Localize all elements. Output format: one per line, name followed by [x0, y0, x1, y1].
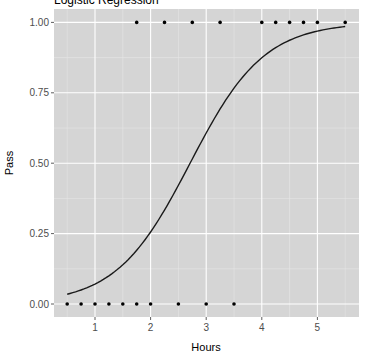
data-point	[191, 21, 195, 25]
data-point	[316, 21, 320, 25]
data-point	[288, 21, 292, 25]
data-point	[177, 302, 181, 306]
x-axis: 12345	[92, 317, 320, 333]
y-tick-label: 1.00	[30, 17, 50, 28]
y-axis-title: Pass	[3, 150, 15, 175]
y-tick-label: 0.00	[30, 299, 50, 310]
x-tick-label: 5	[315, 322, 321, 333]
data-point	[302, 21, 306, 25]
data-point	[79, 302, 83, 306]
data-point	[204, 302, 208, 306]
data-point	[121, 302, 125, 306]
data-point	[135, 21, 139, 25]
y-tick-label: 0.75	[30, 87, 50, 98]
data-point	[149, 302, 153, 306]
x-tick-label: 1	[92, 322, 98, 333]
data-point	[135, 302, 139, 306]
data-point	[218, 21, 222, 25]
y-axis: 0.000.250.500.751.00	[30, 17, 54, 310]
data-point	[232, 302, 236, 306]
data-point	[343, 21, 347, 25]
data-point	[93, 302, 97, 306]
data-point	[107, 302, 111, 306]
logistic-regression-chart: Logistic Regression 12345 0.000.250.500.…	[0, 0, 370, 364]
chart-title: Logistic Regression	[54, 0, 159, 7]
data-point	[274, 21, 278, 25]
plot-canvas: 12345 0.000.250.500.751.00 Hours Pass	[0, 0, 370, 364]
x-tick-label: 2	[148, 322, 154, 333]
y-tick-label: 0.25	[30, 228, 50, 239]
x-tick-label: 3	[203, 322, 209, 333]
x-tick-label: 4	[259, 322, 265, 333]
data-point	[260, 21, 264, 25]
data-point	[163, 21, 167, 25]
x-axis-title: Hours	[191, 341, 221, 353]
data-point	[65, 302, 69, 306]
y-tick-label: 0.50	[30, 158, 50, 169]
